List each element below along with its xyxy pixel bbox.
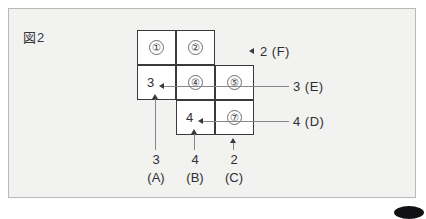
leader-line-a	[155, 98, 156, 150]
grid-cell-r1c1: ①	[137, 30, 176, 65]
figure-frame: 図2 ① ② ④ ⑤ ⑦ 3 4 2 (F) 3 (E) 4 (D) 3 (A)…	[8, 8, 416, 198]
arrow-left-d-icon	[198, 118, 203, 124]
grid-cell-r3c3: ⑦	[215, 100, 254, 135]
arrow-left-e-icon	[159, 83, 164, 89]
circled-number-7: ⑦	[227, 110, 242, 125]
bottom-label-b-number: 4	[191, 152, 198, 167]
grid-cell-r2c2: ④	[176, 65, 215, 100]
bottom-label-b-letter: (B)	[186, 170, 203, 185]
right-label-e: 3 (E)	[293, 79, 324, 94]
grid-cell-r1c2: ②	[176, 30, 215, 65]
leader-line-e	[162, 86, 289, 87]
circled-number-1: ①	[149, 40, 164, 55]
circled-number-5: ⑤	[227, 75, 242, 90]
figure-title: 図2	[23, 27, 45, 46]
arrow-up-c-icon	[230, 138, 236, 143]
arrow-up-a-icon	[152, 94, 158, 99]
circled-number-2: ②	[188, 40, 203, 55]
bottom-label-a-letter: (A)	[147, 170, 164, 185]
bottom-label-c-letter: (C)	[225, 170, 243, 185]
right-label-d: 4 (D)	[293, 114, 324, 129]
leader-line-d	[201, 121, 289, 122]
right-label-f: 2 (F)	[260, 44, 290, 59]
arrow-up-b-icon	[191, 129, 197, 134]
cell-value-4: 4	[186, 110, 193, 125]
page-corner-dot	[394, 206, 424, 214]
leader-line-c	[233, 142, 234, 150]
circled-number-4: ④	[188, 75, 203, 90]
bottom-label-a-number: 3	[152, 152, 159, 167]
cell-value-3: 3	[147, 75, 154, 90]
leader-line-b	[194, 133, 195, 150]
bottom-label-c-number: 2	[230, 152, 237, 167]
grid-cell-r2c3: ⑤	[215, 65, 254, 100]
arrow-left-f-icon	[249, 48, 254, 54]
